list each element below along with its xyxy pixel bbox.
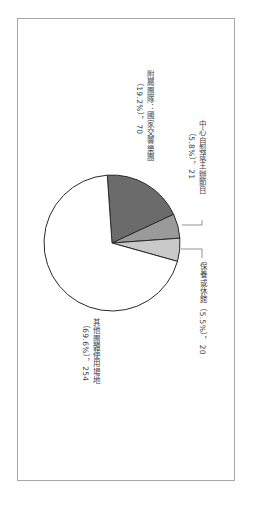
label-other-groups-name: 其他團體使用場地 [91,318,100,384]
pie-slices [44,175,180,311]
leader-line-center-produced [182,220,202,225]
label-nso-value: （19.2%），70 [134,78,144,134]
label-center-produced-name: 中心自製或主辦節目 [197,120,206,195]
label-nso: 附屬團隊：國家交響樂團 （19.2%），70 [134,70,154,161]
label-center-produced: 中心自製或主辦節目 （5.8%），21 [186,120,206,195]
label-maintenance-text: 保養或休館（5.5%），20 [198,262,207,355]
label-center-produced-value: （5.8%），21 [186,128,196,179]
label-maintenance: 保養或休館（5.5%），20 [197,262,207,355]
label-other-groups: 其他團體使用場地 （69.6%），254 [80,318,100,384]
pie-chart [0,0,253,506]
leader-line-maintenance [181,249,202,258]
leader-lines [181,220,202,258]
label-nso-name: 附屬團隊：國家交響樂團 [145,70,154,161]
label-other-groups-value: （69.6%），254 [80,320,90,381]
